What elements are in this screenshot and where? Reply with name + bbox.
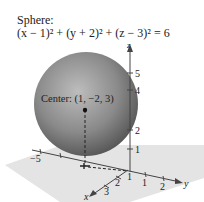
z-tick-4: 4 xyxy=(135,85,140,96)
center-point xyxy=(83,108,87,112)
sphere-equation: (x − 1)² + (y + 2)² + (z − 3)² = 6 xyxy=(17,27,170,40)
sphere-figure: z 5 4 2 1 −5 1 2 y 1 2 3 x Center: (1, −… xyxy=(0,0,204,202)
x-axis-label: x xyxy=(83,191,89,202)
x-tick-1: 1 xyxy=(127,171,132,182)
z-tick-2: 2 xyxy=(135,125,140,136)
y-tick-1: 1 xyxy=(142,177,147,188)
y-axis-label: y xyxy=(183,178,189,189)
sphere xyxy=(34,52,138,156)
z-tick-1: 1 xyxy=(135,144,140,155)
y-tick-neg5: −5 xyxy=(30,153,41,164)
z-tick-5: 5 xyxy=(135,68,140,79)
y-tick-2: 2 xyxy=(160,181,165,192)
z-axis-label: z xyxy=(126,40,131,50)
center-label: Center: (1, −2, 3) xyxy=(41,93,114,105)
x-tick-3: 3 xyxy=(104,186,109,197)
x-tick-2: 2 xyxy=(115,177,120,188)
